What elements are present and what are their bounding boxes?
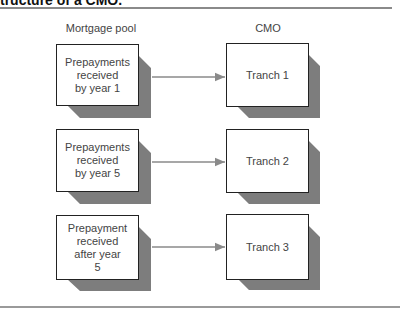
source-box-1: Prepayments received by year 1 — [56, 44, 139, 106]
target-box-1: Tranch 1 — [226, 43, 309, 107]
source-box-3-label: Prepayment received after year 5 — [68, 222, 127, 274]
bottom-rule — [0, 306, 400, 308]
target-box-1-label: Tranch 1 — [246, 69, 289, 82]
target-box-2: Tranch 2 — [226, 129, 309, 193]
source-box-1-label: Prepayments received by year 1 — [65, 56, 130, 95]
target-box-3-label: Tranch 3 — [246, 241, 289, 254]
target-box-3: Tranch 3 — [226, 214, 309, 280]
source-box-2-label: Prepayments received by year 5 — [65, 141, 130, 180]
source-box-3: Prepayment received after year 5 — [56, 215, 139, 280]
source-box-2: Prepayments received by year 5 — [56, 129, 139, 192]
target-box-2-label: Tranch 2 — [246, 155, 289, 168]
